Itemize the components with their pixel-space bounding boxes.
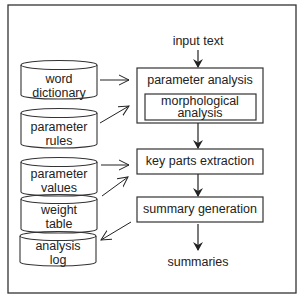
input-text-label: input text	[150, 34, 246, 48]
word-dictionary-label: word dictionary	[32, 72, 86, 100]
morphological-analysis-label: morphological analysis	[160, 95, 240, 119]
weight-arrow	[102, 177, 128, 196]
analysis-log-label: analysis log	[30, 239, 86, 267]
parameter-analysis-label: parameter analysis	[137, 73, 263, 87]
summary-generation-label: summary generation	[137, 202, 263, 216]
parameter-rules-label: parameter rules	[28, 120, 90, 148]
log-arrow	[101, 222, 131, 240]
weight-table-label: weight table	[30, 203, 88, 231]
parameter-values-label: parameter values	[28, 167, 90, 195]
key-parts-extraction-label: key parts extraction	[137, 154, 263, 168]
summaries-label: summaries	[150, 255, 246, 269]
rules-arrow	[100, 106, 129, 123]
